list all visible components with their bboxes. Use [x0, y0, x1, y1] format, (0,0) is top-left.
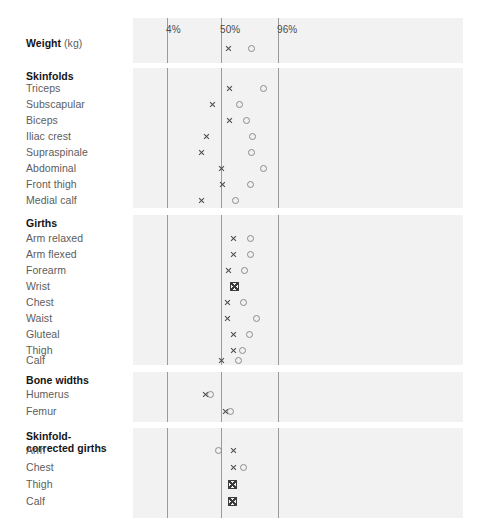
- marker-o-front-thigh: [246, 180, 255, 189]
- marker-o-weight: [247, 44, 256, 53]
- marker-xo-thigh: [228, 480, 237, 489]
- marker-xo-wrist: [230, 282, 239, 291]
- marker-o-arm-flexed: [246, 250, 255, 259]
- marker-o-arm-relaxed: [246, 234, 255, 243]
- row-label-biceps: Biceps: [26, 114, 58, 126]
- marker-o-forearm: [240, 266, 249, 275]
- group-heading-weight: Weight (kg): [26, 38, 82, 50]
- axis-tick-label-96pct: 96%: [277, 24, 297, 35]
- marker-x-weight: [224, 44, 233, 53]
- marker-o-chest: [239, 463, 248, 472]
- marker-o-gluteal: [245, 330, 254, 339]
- row-label-iliac-crest: Iliac crest: [26, 130, 71, 142]
- group-heading-girths: Girths: [26, 218, 57, 230]
- gridline-96pct: [278, 215, 279, 365]
- row-label-front-thigh: Front thigh: [26, 178, 77, 190]
- row-label-arm: Arm: [26, 444, 45, 456]
- row-label-abdominal: Abdominal: [26, 162, 76, 174]
- marker-o-supraspinale: [247, 148, 256, 157]
- marker-x-waist: [223, 314, 232, 323]
- group-heading-text: Bone widths: [26, 374, 89, 386]
- marker-x-chest: [229, 463, 238, 472]
- panel-skinfold-corrected-girths: [133, 428, 463, 518]
- row-label-supraspinale: Supraspinale: [26, 146, 88, 158]
- marker-o-biceps: [242, 116, 251, 125]
- gridline-4pct: [167, 215, 168, 365]
- group-heading-skinfolds: Skinfolds: [26, 71, 74, 83]
- marker-x-triceps: [225, 84, 234, 93]
- row-label-gluteal: Gluteal: [26, 328, 60, 340]
- marker-x-supraspinale: [197, 148, 206, 157]
- marker-x-medial-calf: [197, 196, 206, 205]
- gridline-4pct: [167, 68, 168, 208]
- row-label-medial-calf: Medial calf: [26, 194, 77, 206]
- marker-o-calf: [234, 356, 243, 365]
- gridline-50pct: [221, 428, 222, 518]
- row-label-chest: Chest: [26, 461, 54, 473]
- row-label-thigh: Thigh: [26, 478, 53, 490]
- marker-o-chest: [239, 298, 248, 307]
- marker-o-humerus: [206, 390, 215, 399]
- row-label-femur: Femur: [26, 405, 57, 417]
- group-heading-unit: (kg): [61, 37, 82, 49]
- row-label-arm-flexed: Arm flexed: [26, 248, 77, 260]
- row-label-calf: Calf: [26, 495, 45, 507]
- row-label-wrist: Wrist: [26, 280, 50, 292]
- marker-x-subscapular: [208, 100, 217, 109]
- marker-o-waist: [252, 314, 261, 323]
- row-label-triceps: Triceps: [26, 82, 60, 94]
- marker-o-femur: [226, 407, 235, 416]
- panel-skinfolds: [133, 68, 463, 208]
- marker-o-iliac-crest: [248, 132, 257, 141]
- panel-girths: [133, 215, 463, 365]
- marker-o-thigh: [238, 346, 247, 355]
- axis-tick-label-50pct: 50%: [220, 24, 240, 35]
- marker-x-arm-relaxed: [229, 234, 238, 243]
- marker-xo-calf: [228, 497, 237, 506]
- gridline-4pct: [167, 372, 168, 422]
- marker-x-forearm: [224, 266, 233, 275]
- axis-header: 4%50%96%: [133, 24, 463, 38]
- marker-x-calf: [217, 356, 226, 365]
- axis-tick-label-4pct: 4%: [166, 24, 181, 35]
- group-heading-text: Weight: [26, 37, 61, 49]
- marker-x-thigh: [229, 346, 238, 355]
- row-label-calf: Calf: [26, 354, 45, 366]
- percentile-chart: 4%50%96% Weight (kg)SkinfoldsTricepsSubs…: [0, 0, 479, 529]
- marker-o-abdominal: [259, 164, 268, 173]
- marker-x-front-thigh: [218, 180, 227, 189]
- panel-bone-widths: [133, 372, 463, 422]
- marker-o-medial-calf: [231, 196, 240, 205]
- group-heading-bone-widths: Bone widths: [26, 375, 89, 387]
- marker-x-gluteal: [229, 330, 238, 339]
- marker-x-iliac-crest: [202, 132, 211, 141]
- row-label-waist: Waist: [26, 312, 52, 324]
- gridline-96pct: [278, 372, 279, 422]
- group-heading-line1: Skinfold-: [26, 431, 107, 443]
- marker-x-arm-flexed: [229, 250, 238, 259]
- row-label-subscapular: Subscapular: [26, 98, 85, 110]
- marker-o-arm: [214, 446, 223, 455]
- gridline-4pct: [167, 428, 168, 518]
- marker-x-arm: [229, 446, 238, 455]
- row-label-humerus: Humerus: [26, 388, 69, 400]
- group-heading-text: Skinfolds: [26, 70, 74, 82]
- group-heading-text: Girths: [26, 217, 57, 229]
- marker-x-chest: [223, 298, 232, 307]
- row-label-forearm: Forearm: [26, 264, 66, 276]
- gridline-96pct: [278, 68, 279, 208]
- gridline-96pct: [278, 428, 279, 518]
- marker-x-abdominal: [217, 164, 226, 173]
- marker-x-biceps: [225, 116, 234, 125]
- marker-o-triceps: [259, 84, 268, 93]
- row-label-arm-relaxed: Arm relaxed: [26, 232, 83, 244]
- marker-o-subscapular: [235, 100, 244, 109]
- gridline-50pct: [221, 215, 222, 365]
- row-label-chest: Chest: [26, 296, 54, 308]
